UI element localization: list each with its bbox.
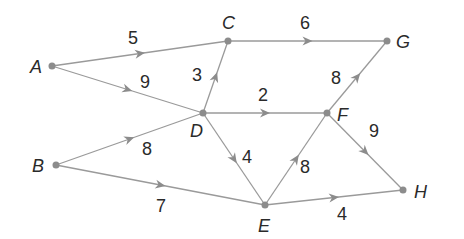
node-label-H: H — [414, 182, 428, 202]
edge-weight-C-G: 6 — [300, 13, 310, 33]
node-label-E: E — [258, 216, 271, 236]
node-label-C: C — [222, 13, 236, 33]
edge-weight-D-E: 4 — [242, 147, 252, 167]
edges-layer — [52, 41, 403, 205]
node-label-F: F — [337, 105, 349, 125]
edge-weight-A-C: 5 — [128, 28, 138, 48]
node-label-A: A — [29, 57, 42, 77]
node-D — [200, 110, 207, 117]
node-F — [324, 110, 331, 117]
edge-weight-A-D: 9 — [140, 72, 150, 92]
node-G — [384, 38, 391, 45]
node-H — [400, 187, 407, 194]
node-E — [262, 202, 269, 209]
arrows-layer — [121, 37, 368, 203]
arrow-icon — [289, 155, 298, 166]
node-label-G: G — [396, 32, 410, 52]
edge-weight-D-F: 2 — [258, 85, 268, 105]
arrow-icon — [350, 73, 360, 84]
node-A — [49, 63, 56, 70]
edge-weight-B-D: 8 — [142, 139, 152, 159]
node-B — [53, 162, 60, 169]
arrow-icon — [227, 152, 236, 163]
node-label-D: D — [190, 121, 203, 141]
edge-weight-F-G: 8 — [331, 68, 341, 88]
edge-weight-D-C: 3 — [192, 65, 202, 85]
edge-weight-E-F: 8 — [300, 157, 310, 177]
labels-layer: 593628848974ABCDEFGH — [29, 13, 428, 236]
edge-weight-E-H: 4 — [337, 204, 347, 224]
weighted-directed-graph: 593628848974ABCDEFGH — [0, 0, 464, 239]
node-label-B: B — [32, 156, 44, 176]
edge-weight-F-H: 9 — [369, 121, 379, 141]
nodes-layer — [49, 38, 407, 209]
node-C — [225, 38, 232, 45]
edge-weight-B-E: 7 — [156, 196, 166, 216]
